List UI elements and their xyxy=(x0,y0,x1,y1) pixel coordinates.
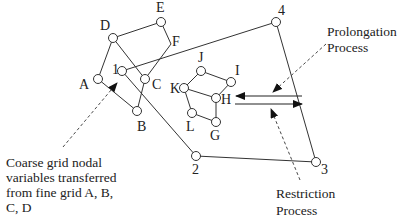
coarse-transfer-line-4: C, D xyxy=(6,200,32,215)
node-e xyxy=(157,18,166,27)
label-l: L xyxy=(186,119,195,134)
restriction-line-1: Restriction xyxy=(276,186,335,201)
coarse-transfer-line-2: variables transferred xyxy=(6,170,117,185)
node-4 xyxy=(272,18,281,27)
node-a xyxy=(94,75,103,84)
node-3 xyxy=(312,158,321,167)
node-j xyxy=(197,67,206,76)
label-f: F xyxy=(172,34,180,49)
restriction-line-2: Process xyxy=(276,203,317,218)
coarse-transfer-caption: Coarse grid nodal variables transferred … xyxy=(6,155,117,215)
prolongation-caption: Prolongation Process xyxy=(327,24,397,55)
prolongation-line-1: Prolongation xyxy=(327,24,397,39)
restriction-leader xyxy=(271,109,300,180)
transfer-arrows xyxy=(235,96,302,104)
coarse-transfer-line-3: from fine grid A, B, xyxy=(6,185,113,200)
coarse-transfer-line-1: Coarse grid nodal xyxy=(6,155,102,170)
coarse-transfer-leader xyxy=(63,83,117,147)
node-b xyxy=(133,107,142,116)
node-labels: A B C D E F G H I J K L 1 2 3 4 xyxy=(79,0,328,177)
node-i xyxy=(227,78,236,87)
restriction-caption: Restriction Process xyxy=(276,186,335,218)
label-i: I xyxy=(235,63,240,78)
label-b: B xyxy=(137,119,146,134)
label-a: A xyxy=(79,77,90,92)
node-d xyxy=(109,34,118,43)
label-c: C xyxy=(152,77,161,92)
label-d: D xyxy=(100,18,110,33)
node-2 xyxy=(192,152,201,161)
label-2: 2 xyxy=(192,162,199,177)
label-4: 4 xyxy=(278,3,285,18)
multigrid-diagram: A B C D E F G H I J K L 1 2 3 4 Prolonga… xyxy=(0,0,402,222)
label-k: K xyxy=(170,81,180,96)
prolongation-line-2: Process xyxy=(327,40,368,55)
label-j: J xyxy=(198,50,204,65)
node-l xyxy=(188,109,197,118)
node-c xyxy=(141,75,150,84)
label-h: H xyxy=(221,92,231,107)
label-1: 1 xyxy=(112,62,119,77)
node-k xyxy=(180,84,189,93)
label-g: G xyxy=(210,128,220,143)
prolongation-leader xyxy=(273,44,326,92)
label-3: 3 xyxy=(321,162,328,177)
node-g xyxy=(212,118,221,127)
node-h xyxy=(212,94,221,103)
label-e: E xyxy=(156,0,165,15)
